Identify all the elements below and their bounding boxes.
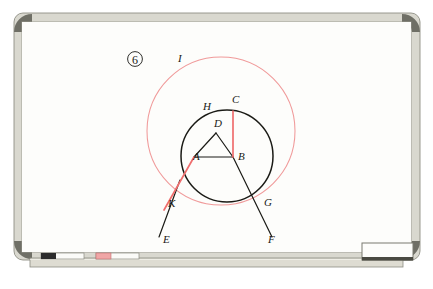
label-B: B xyxy=(238,150,245,162)
whiteboard-photo: 6 I H C D xyxy=(0,0,433,289)
red-marker[interactable] xyxy=(96,253,139,259)
whiteboard-surface: 6 I H C D xyxy=(22,22,411,252)
label-F: F xyxy=(267,233,275,245)
figure-number-text: 6 xyxy=(132,53,138,67)
label-G: G xyxy=(264,196,272,208)
label-C: C xyxy=(232,93,240,105)
label-A: A xyxy=(192,150,200,162)
label-E: E xyxy=(162,233,170,245)
marker-tray xyxy=(30,258,403,267)
label-H: H xyxy=(202,100,212,112)
black-marker[interactable] xyxy=(41,253,84,259)
eraser[interactable] xyxy=(362,243,413,261)
label-D: D xyxy=(213,117,222,129)
label-K: K xyxy=(167,197,176,209)
